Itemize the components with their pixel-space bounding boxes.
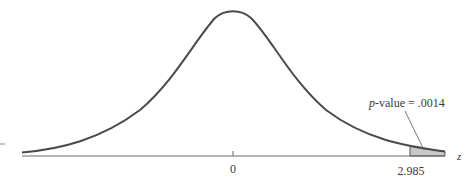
pvalue-annotation: p-value = .0014 (368, 96, 445, 110)
pvalue-text: -value = .0014 (375, 96, 445, 110)
normal-curve (22, 11, 445, 152)
zero-label: 0 (230, 162, 236, 176)
annotation-pointer (405, 111, 424, 150)
normal-distribution-chart: 0 2.985 z p-value = .0014 (0, 0, 476, 184)
pvalue-prefix: p (368, 96, 375, 110)
critical-value-label: 2.985 (398, 164, 425, 178)
z-axis-label: z (456, 150, 462, 162)
